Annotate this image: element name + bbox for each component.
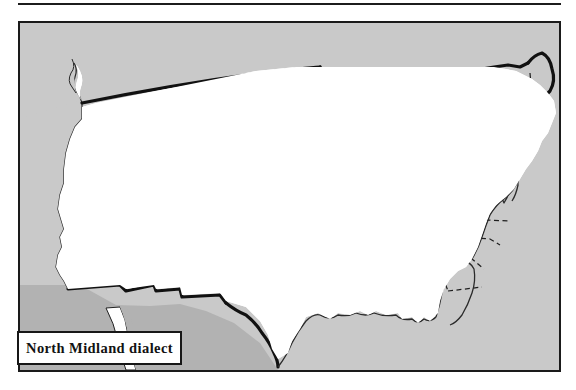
legend-label: North Midland dialect <box>26 340 173 357</box>
figure-page: North Midland dialect <box>0 0 576 390</box>
top-horizontal-rule <box>18 3 561 5</box>
map-legend: North Midland dialect <box>17 331 182 365</box>
united-states-dialect-map <box>20 23 559 370</box>
map-frame <box>18 21 561 372</box>
